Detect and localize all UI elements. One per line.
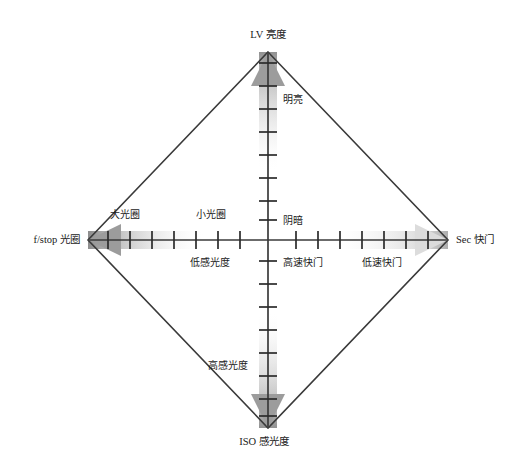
zone-label-dark: 阴暗: [283, 216, 303, 226]
zone-label-slow-shutter: 低速快门: [362, 258, 402, 268]
zone-label-bright: 明亮: [283, 95, 303, 105]
zone-label-fast-shutter: 高速快门: [283, 258, 323, 268]
axis-label-lv: LV 亮度: [250, 30, 285, 41]
axis-label-iso: ISO 感光度: [239, 437, 289, 448]
axis-label-fstop: f/stop 光圈: [33, 235, 80, 246]
zone-label-small-aperture: 小光圈: [196, 210, 226, 220]
zone-label-low-iso: 低感光度: [190, 258, 230, 268]
zone-label-large-aperture: 大光圈: [110, 210, 140, 220]
axis-label-sec: Sec 快门: [456, 235, 494, 246]
zone-label-high-iso: 高感光度: [208, 361, 248, 371]
exposure-diamond-diagram: LV 亮度 ISO 感光度 f/stop 光圈 Sec 快门 明亮 阴暗 高感光…: [0, 0, 530, 475]
